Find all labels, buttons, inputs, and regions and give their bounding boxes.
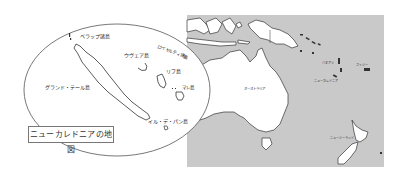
label-ouvea: ウヴェア島 [124,52,149,59]
label-mare: マレ島 [182,84,195,91]
regional-map: オーストラリア バヌアツ ニューカレドニア フィジー ニュージーランド [187,15,384,167]
label-vanuatu: バヌアツ [322,60,334,65]
ile-des-pins-island [164,126,168,130]
label-ile-des-pins: イル・デ・パン島 [148,118,188,125]
label-fiji: フィジー [356,62,368,67]
mare-island [176,92,184,100]
label-australia: オーストラリア [244,86,266,91]
inset-caption: ニューカレドニアの地図 [28,126,114,143]
label-belep: ベラップ諸島 [80,33,110,40]
map-figure: オーストラリア バヌアツ ニューカレドニア フィジー ニュージーランド ベラップ… [0,0,406,181]
label-grande-terre: グランド・テール島 [45,84,90,91]
label-new-caledonia-small: ニューカレドニア [314,78,338,83]
label-new-zealand: ニュージーランド [330,135,354,140]
label-lifou: リフ島 [166,68,181,75]
